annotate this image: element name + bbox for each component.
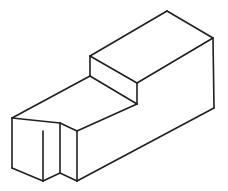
edge-right-side-vertical (213, 38, 214, 108)
face-notch-left (43, 123, 60, 181)
isometric-solid-drawing (0, 0, 228, 191)
face-notch-right (60, 123, 77, 181)
figure-canvas (0, 0, 228, 191)
